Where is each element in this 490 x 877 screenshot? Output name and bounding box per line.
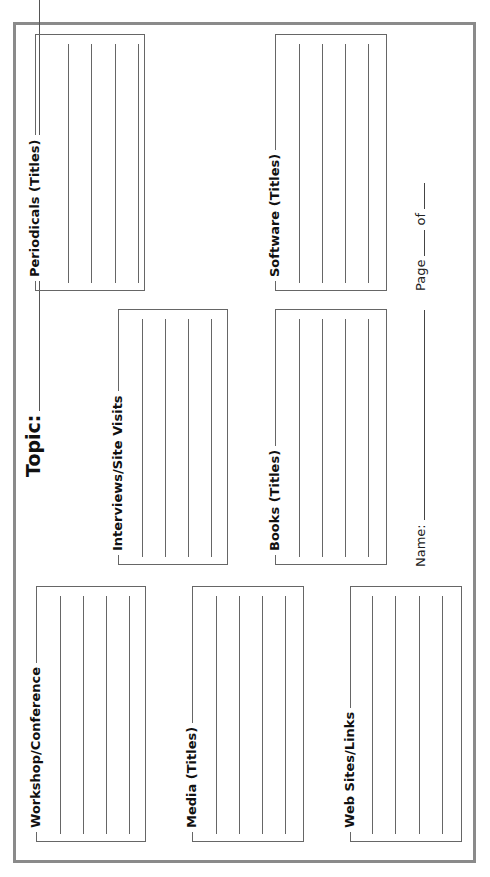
workshop-line-4[interactable] — [129, 596, 130, 834]
name-field: Name: — [413, 306, 428, 567]
periodicals-line-4[interactable] — [138, 44, 139, 283]
name-label: Name: — [413, 524, 428, 567]
websites-line-1[interactable] — [372, 596, 373, 834]
interviews-label: Interviews/Site Visits — [110, 391, 126, 555]
name-input-line[interactable] — [424, 310, 425, 520]
section-software: Software (Titles) — [275, 34, 387, 291]
section-books: Books (Titles) — [275, 309, 387, 565]
workshop-line-2[interactable] — [83, 596, 84, 834]
websites-box — [350, 586, 462, 842]
section-workshop: Workshop/Conference — [36, 586, 146, 842]
software-line-1[interactable] — [299, 44, 300, 283]
periodicals-box — [35, 34, 145, 291]
periodicals-label: Periodicals (Titles) — [27, 135, 43, 281]
media-line-2[interactable] — [239, 596, 240, 834]
interviews-line-1[interactable] — [142, 319, 143, 557]
page-total-line[interactable] — [424, 183, 425, 209]
websites-line-3[interactable] — [419, 596, 420, 834]
websites-label: Web Sites/Links — [342, 708, 358, 832]
periodicals-line-1[interactable] — [68, 44, 69, 283]
periodicals-line-3[interactable] — [115, 44, 116, 283]
interviews-line-2[interactable] — [165, 319, 166, 557]
page-field: Page of — [413, 179, 428, 291]
software-line-2[interactable] — [322, 44, 323, 283]
interviews-line-4[interactable] — [211, 319, 212, 557]
media-label: Media (Titles) — [184, 723, 200, 832]
books-line-1[interactable] — [299, 319, 300, 557]
media-box — [192, 586, 304, 842]
software-label: Software (Titles) — [267, 150, 283, 281]
workshop-label: Workshop/Conference — [28, 663, 44, 832]
worksheet-page: Topic: Periodicals (Titles) Software (Ti… — [0, 0, 490, 877]
workshop-line-1[interactable] — [60, 596, 61, 834]
media-line-4[interactable] — [285, 596, 286, 834]
books-line-2[interactable] — [322, 319, 323, 557]
section-periodicals: Periodicals (Titles) — [35, 34, 230, 291]
topic-label: Topic: — [22, 415, 44, 477]
software-box — [275, 34, 387, 291]
media-line-3[interactable] — [262, 596, 263, 834]
periodicals-line-2[interactable] — [91, 44, 92, 283]
page-label: Page — [413, 260, 428, 291]
books-line-3[interactable] — [345, 319, 346, 557]
section-websites: Web Sites/Links — [350, 586, 462, 842]
media-line-1[interactable] — [216, 596, 217, 834]
software-line-3[interactable] — [345, 44, 346, 283]
books-label: Books (Titles) — [267, 446, 283, 555]
section-interviews: Interviews/Site Visits — [118, 309, 228, 565]
interviews-line-3[interactable] — [188, 319, 189, 557]
books-box — [275, 309, 387, 565]
books-line-4[interactable] — [368, 319, 369, 557]
software-line-4[interactable] — [368, 44, 369, 283]
websites-line-2[interactable] — [395, 596, 396, 834]
section-media: Media (Titles) — [192, 586, 304, 842]
workshop-line-3[interactable] — [106, 596, 107, 834]
page-number-line[interactable] — [424, 230, 425, 256]
of-label: of — [413, 213, 428, 226]
websites-line-4[interactable] — [442, 596, 443, 834]
